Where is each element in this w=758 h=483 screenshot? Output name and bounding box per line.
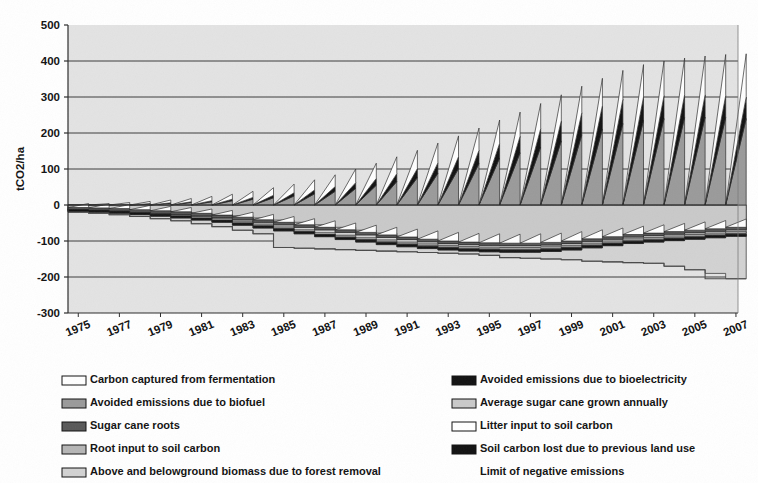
legend-swatch [62,468,86,477]
legend-swatch [452,376,476,385]
legend-label: Sugar cane roots [90,419,180,431]
legend: Carbon captured from fermentationAvoided… [62,373,695,477]
legend-swatch [452,399,476,408]
y-tick-label: -100 [37,235,60,247]
x-tick-label: 1981 [187,318,216,339]
legend-swatch [452,422,476,431]
x-tick-label: 1997 [516,318,544,339]
x-tick-label: 1993 [434,318,462,339]
y-tick-label: 300 [41,91,60,103]
legend-item: Above and belowground biomass due to for… [62,465,381,477]
legend-label: Above and belowground biomass due to for… [90,465,381,477]
y-tick-label: 500 [41,19,60,31]
legend-item: Root input to soil carbon [62,442,220,454]
y-axis: 5004003002001000-100-200-300 [37,19,68,319]
y-tick-label: 0 [54,199,60,211]
x-tick-label: 2005 [680,318,709,339]
legend-label: Root input to soil carbon [90,442,220,454]
legend-swatch [452,445,476,454]
legend-item: Avoided emissions due to bioelectricity [452,373,688,385]
x-tick-label: 1977 [105,318,133,339]
legend-label: Limit of negative emissions [480,465,624,477]
legend-label: Avoided emissions due to biofuel [90,396,265,408]
legend-item: Carbon captured from fermentation [62,373,275,385]
y-tick-label: 400 [41,55,60,67]
legend-item: Soil carbon lost due to previous land us… [452,442,695,454]
legend-swatch [62,445,86,454]
x-tick-label: 1995 [475,318,504,339]
legend-label: Litter input to soil carbon [480,419,613,431]
x-axis: 1975197719791981198319851987198919911993… [64,313,750,338]
x-tick-label: 2001 [598,318,627,339]
legend-item: Litter input to soil carbon [452,419,613,431]
y-tick-label: 200 [41,127,60,139]
y-tick-label: -200 [37,271,60,283]
x-tick-label: 1983 [228,318,256,339]
x-tick-label: 2003 [639,318,667,339]
legend-swatch [62,376,86,385]
legend-swatch [62,422,86,431]
emissions-area-chart: 5004003002001000-100-200-300tCO2/ha19751… [0,0,758,483]
x-tick-label: 1991 [393,318,422,339]
x-tick-label: 2007 [721,318,749,339]
x-tick-label: 1985 [269,318,298,339]
x-tick-label: 1999 [557,318,585,339]
chart-container: 5004003002001000-100-200-300tCO2/ha19751… [0,0,758,483]
legend-label: Carbon captured from fermentation [90,373,275,385]
y-tick-label: 100 [41,163,60,175]
x-tick-label: 1975 [64,318,93,339]
x-tick-label: 1979 [146,318,174,339]
legend-item: Avoided emissions due to biofuel [62,396,265,408]
legend-swatch [62,399,86,408]
x-tick-label: 1987 [310,318,338,339]
y-tick-label: -300 [37,307,60,319]
legend-label: Average sugar cane grown annually [480,396,669,408]
y-axis-title: tCO2/ha [14,146,26,191]
legend-label: Soil carbon lost due to previous land us… [480,442,695,454]
legend-item: Average sugar cane grown annually [452,396,669,408]
legend-label: Avoided emissions due to bioelectricity [480,373,688,385]
x-tick-label: 1989 [352,318,380,339]
legend-item: Sugar cane roots [62,419,180,431]
legend-item: Limit of negative emissions [480,465,624,477]
